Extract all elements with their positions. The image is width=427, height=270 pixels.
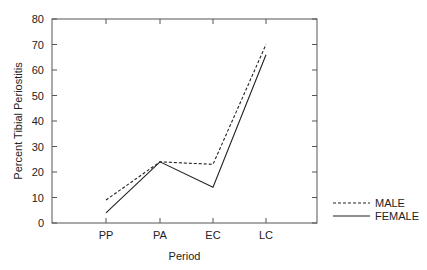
y-tick-label: 10 (32, 192, 44, 204)
legend-label-female: FEMALE (375, 210, 419, 222)
legend-label-male: MALE (375, 197, 405, 209)
y-tick-label: 60 (32, 64, 44, 76)
y-tick-label: 50 (32, 90, 44, 102)
y-tick-label: 80 (32, 13, 44, 25)
plot-frame (52, 19, 317, 223)
y-tick-label: 40 (32, 115, 44, 127)
x-tick-label: PA (153, 229, 168, 241)
x-tick-label: PP (99, 229, 114, 241)
x-tick-label: EC (205, 229, 220, 241)
x-tick-label: LC (259, 229, 273, 241)
x-axis-label: Period (169, 250, 201, 262)
series-female-line (106, 55, 266, 213)
y-tick-label: 0 (38, 217, 44, 229)
y-axis-label: Percent Tibial Periostitis (12, 62, 24, 180)
series-male-line (106, 45, 266, 201)
y-tick-label: 30 (32, 141, 44, 153)
line-chart: 01020304050607080PPPAECLCPeriodPercent T… (0, 0, 427, 270)
y-tick-label: 20 (32, 166, 44, 178)
y-tick-label: 70 (32, 39, 44, 51)
